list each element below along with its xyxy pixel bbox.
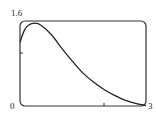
plot-svg — [0, 0, 156, 117]
plot-frame — [20, 21, 146, 106]
y-axis-max-label: 1.6 — [11, 9, 22, 18]
chart-area: 1.6 0 3 — [0, 0, 156, 117]
x-axis-max-label: 3 — [148, 102, 153, 111]
data-curve — [20, 23, 146, 105]
y-axis-min-label: 0 — [10, 102, 15, 111]
